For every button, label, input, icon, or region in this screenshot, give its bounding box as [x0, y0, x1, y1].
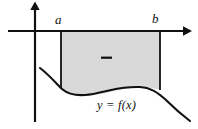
function-label: y = f(x) [97, 99, 136, 112]
math-figure: a b y = f(x) [0, 0, 198, 129]
limit-label-a: a [55, 13, 62, 26]
x-axis-arrow-icon [183, 26, 192, 35]
y-axis-arrow-icon [30, 2, 39, 11]
limit-label-b: b [152, 12, 159, 25]
minus-sign-icon [101, 57, 112, 59]
shaded-region [61, 31, 160, 95]
